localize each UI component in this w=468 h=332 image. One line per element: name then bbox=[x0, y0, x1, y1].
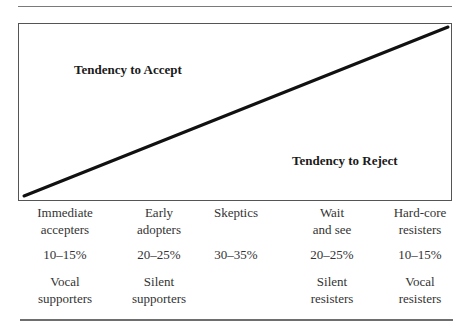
segment-role: Vocal supporters bbox=[20, 273, 110, 307]
tendency-to-reject-label: Tendency to Reject bbox=[292, 153, 398, 169]
segment-immediate-accepters: Immediate accepters 10–15% Vocal support… bbox=[20, 204, 110, 307]
segment-percent: 10–15% bbox=[20, 246, 110, 263]
segment-role: Silent resisters bbox=[287, 273, 377, 307]
segment-name: Immediate accepters bbox=[20, 204, 110, 238]
segment-hard-core-resisters: Hard-core resisters 10–15% Vocal resiste… bbox=[375, 204, 465, 307]
segment-name: Skeptics bbox=[191, 204, 281, 238]
segment-name: Wait and see bbox=[287, 204, 377, 238]
acceptance-diagonal-line bbox=[19, 24, 451, 200]
segment-percent: 20–25% bbox=[287, 246, 377, 263]
segment-percent: 10–15% bbox=[375, 246, 465, 263]
segment-skeptics: Skeptics 30–35% bbox=[191, 204, 281, 307]
tendency-to-accept-label: Tendency to Accept bbox=[74, 62, 182, 78]
segment-wait-and-see: Wait and see 20–25% Silent resisters bbox=[287, 204, 377, 307]
top-rule bbox=[18, 6, 452, 7]
segment-role: Vocal resisters bbox=[375, 273, 465, 307]
segment-percent: 30–35% bbox=[191, 246, 281, 263]
bottom-rule bbox=[20, 319, 453, 321]
acceptance-diagram-box: Tendency to Accept Tendency to Reject bbox=[18, 23, 452, 201]
segment-role bbox=[191, 273, 281, 307]
segment-name: Hard-core resisters bbox=[375, 204, 465, 238]
